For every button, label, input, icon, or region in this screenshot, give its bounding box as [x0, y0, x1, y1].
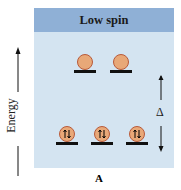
- upper-orbital-2: [110, 70, 132, 80]
- energy-level-line: [74, 70, 96, 73]
- energy-level-line: [110, 70, 132, 73]
- lower-orbital-3: [126, 142, 148, 152]
- diagram-panel: Low spin Δ: [34, 8, 174, 168]
- lower-orbital-1: [56, 142, 78, 152]
- lower-orbital-2: [91, 142, 113, 152]
- energy-level-line: [91, 142, 113, 145]
- paired-electrons-icon: [129, 126, 145, 142]
- paired-electrons-icon: [59, 126, 75, 142]
- energy-level-line: [126, 142, 148, 145]
- panel-title: Low spin: [34, 8, 174, 32]
- paired-electrons-icon: [94, 126, 110, 142]
- empty-orbital-icon: [77, 54, 93, 70]
- energy-level-line: [56, 142, 78, 145]
- empty-orbital-icon: [113, 54, 129, 70]
- delta-label: Δ: [156, 105, 164, 120]
- upper-orbital-1: [74, 70, 96, 80]
- energy-axis-label: Energy: [4, 98, 19, 132]
- diagram-caption: A: [95, 172, 103, 184]
